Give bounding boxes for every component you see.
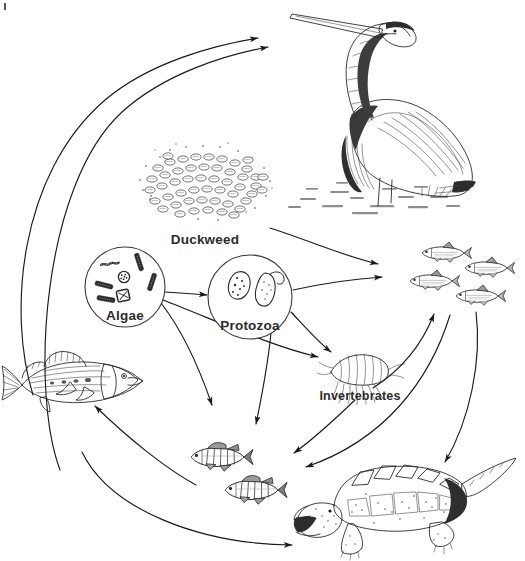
heron-breast-dark [342,136,362,192]
bass-tail-rays [3,369,19,396]
protozoa-node[interactable]: Protozoa [208,255,292,339]
largemouth-bass-illustration [2,351,143,412]
heron-eye [394,30,397,33]
arrow-invertebrates-to-minnows [373,314,434,388]
turtle-front-leg [341,524,362,554]
heron-crown [386,21,415,31]
amphipod-body [331,355,388,385]
bass-pectoral-fin [56,382,76,395]
turtle-shell-shadow [444,478,467,524]
turtle-lower-jaw [296,532,320,536]
arrow-algae-to-protozoa [165,292,207,295]
turtle-mouth-open [294,517,316,532]
heron-leg-back [391,180,392,203]
duckweed-label: Duckweed [171,232,239,247]
arrow-duckweed-to-minnows [270,228,378,264]
food-web-canvas: Duckweed [0,0,525,561]
duckweed-illustration: Duckweed [133,142,277,247]
amphipod-segments [340,354,382,385]
turtle-shell-keel [352,465,459,490]
turtle-tail [462,458,516,497]
turtle-rear-claws [434,543,452,554]
heron-illustration [288,14,476,214]
arrow-protozoa-to-minnows [293,277,382,290]
corner-artifact-mark [4,3,6,10]
heron-wing-feathers [378,112,465,176]
invertebrates-label: Invertebrates [319,389,400,403]
heron-wing [368,113,463,174]
food-web-diagram: Duckweed [0,0,525,561]
heron-leg-front [378,178,380,206]
turtle-tail-ridge [470,462,504,486]
bass-pelvic-fin [76,387,94,400]
amphipod-illustration: Invertebrates [317,354,405,405]
arrow-invertebrates-to-perch [294,400,355,453]
heron-bill-line [296,16,380,33]
algae-node[interactable]: Algae [85,247,165,327]
algae-label: Algae [106,308,144,323]
heron-neck-dark [357,33,388,118]
bass-mouth [128,378,143,386]
bass-gill-cover [112,366,116,397]
arrow-minnows-to-turtle [445,312,478,462]
amphipod-tail [388,364,405,378]
arrow-perch-to-gamefish [95,406,196,485]
bass-body [22,362,142,403]
arrow-protozoa-to-invertebrates [291,312,331,352]
water-ripples [288,182,460,214]
arrow-algae-to-perch [161,303,212,405]
protozoa-label: Protozoa [220,318,280,333]
snapping-turtle-illustration [294,458,516,560]
bass-scales [32,366,106,393]
minnow-school-illustration [410,242,515,305]
turtle-head-stipple [315,508,337,528]
turtle-eye [328,509,331,512]
turtle-scutes [348,492,456,516]
turtle-rear-leg [429,522,454,547]
bass-tail [2,366,22,400]
perch-pair-illustration [191,443,287,505]
bass-head [101,364,138,399]
